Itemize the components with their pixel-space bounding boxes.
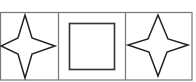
four-point-star-icon — [1, 15, 55, 78]
four-point-star-icon — [128, 15, 188, 76]
cell-2 — [70, 24, 115, 70]
shape-sequence-diagram — [0, 0, 196, 82]
cell-1 — [1, 15, 55, 78]
cell-3 — [128, 15, 188, 76]
square-icon — [70, 24, 115, 70]
